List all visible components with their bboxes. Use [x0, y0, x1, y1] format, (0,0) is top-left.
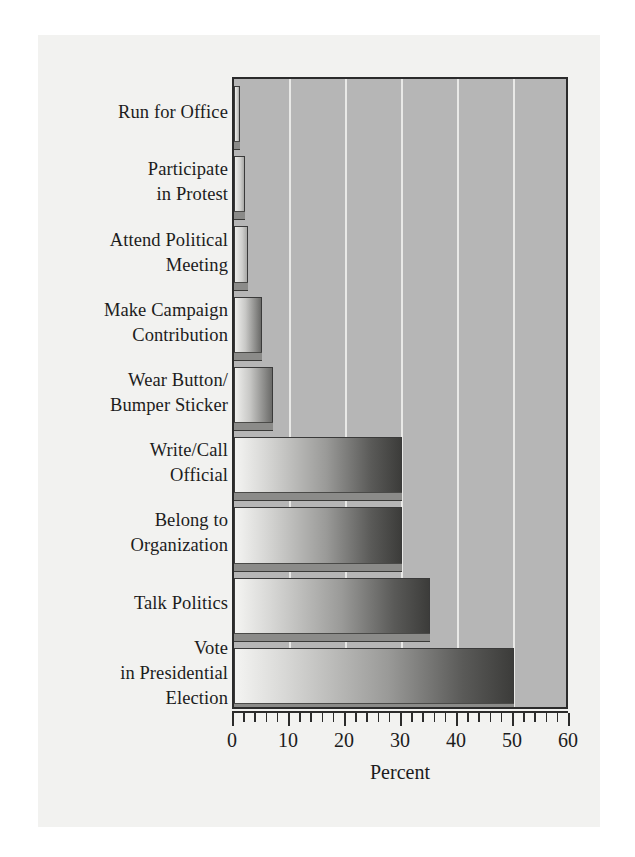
x-tick-38	[445, 713, 447, 722]
category-label-line: Write/Call	[150, 438, 228, 463]
category-label-line: in Presidential	[120, 661, 228, 686]
x-tick-8	[277, 713, 279, 722]
category-label-line: Election	[120, 686, 228, 711]
x-tick-label-30: 30	[370, 729, 430, 752]
x-tick-0	[232, 713, 234, 726]
x-tick-28	[389, 713, 391, 722]
x-tick-52	[523, 713, 525, 722]
figure-page: Run for OfficeParticipatein ProtestAtten…	[38, 35, 600, 827]
category-label: Write/CallOfficial	[150, 438, 228, 488]
bar-row	[234, 290, 566, 360]
x-tick-44	[478, 713, 480, 722]
x-tick-6	[266, 713, 268, 722]
category-label-line: Bumper Sticker	[110, 393, 228, 418]
bar	[234, 86, 240, 142]
category-label: Make CampaignContribution	[104, 298, 228, 348]
category-label-line: Contribution	[104, 323, 228, 348]
bar	[234, 578, 430, 634]
bar-row	[234, 79, 566, 149]
x-tick-60	[568, 713, 570, 726]
x-tick-label-60: 60	[538, 729, 598, 752]
x-tick-12	[299, 713, 301, 722]
bar-shadow	[234, 703, 514, 709]
x-tick-32	[411, 713, 413, 722]
x-tick-50	[512, 713, 514, 726]
category-label: Attend PoliticalMeeting	[110, 228, 228, 278]
x-axis-title: Percent	[232, 761, 568, 784]
category-label-line: Make Campaign	[104, 298, 228, 323]
plot-area	[232, 77, 568, 709]
bar	[234, 226, 248, 282]
x-tick-56	[546, 713, 548, 722]
category-label: Wear Button/Bumper Sticker	[110, 368, 228, 418]
category-label-line: Wear Button/	[110, 368, 228, 393]
bar-row	[234, 360, 566, 430]
category-label-line: in Protest	[148, 182, 228, 207]
bar	[234, 367, 273, 423]
category-label-line: Attend Political	[110, 228, 228, 253]
x-tick-46	[490, 713, 492, 722]
bar-row	[234, 641, 566, 709]
x-tick-58	[557, 713, 559, 722]
category-label: Talk Politics	[134, 591, 228, 616]
x-tick-24	[366, 713, 368, 722]
category-label: Participatein Protest	[148, 157, 228, 207]
category-label: Votein PresidentialElection	[120, 636, 228, 711]
bar	[234, 648, 514, 704]
x-tick-30	[400, 713, 402, 726]
x-tick-26	[378, 713, 380, 722]
category-label-line: Participate	[148, 157, 228, 182]
bar	[234, 437, 402, 493]
category-label: Run for Office	[118, 100, 228, 125]
bar	[234, 156, 245, 212]
x-tick-14	[310, 713, 312, 722]
bar-row	[234, 500, 566, 570]
x-tick-42	[467, 713, 469, 722]
category-label-line: Official	[150, 463, 228, 488]
bar-row	[234, 571, 566, 641]
x-tick-40	[456, 713, 458, 726]
bar	[234, 507, 402, 563]
category-label-line: Talk Politics	[134, 591, 228, 616]
x-tick-16	[322, 713, 324, 722]
x-tick-34	[422, 713, 424, 722]
x-tick-22	[355, 713, 357, 722]
bar-row	[234, 430, 566, 500]
category-label-line: Belong to	[131, 508, 228, 533]
category-label-line: Organization	[131, 533, 228, 558]
x-tick-10	[288, 713, 290, 726]
bar-row	[234, 219, 566, 289]
x-tick-54	[534, 713, 536, 722]
x-tick-label-50: 50	[482, 729, 542, 752]
category-label-line: Meeting	[110, 253, 228, 278]
x-tick-label-40: 40	[426, 729, 486, 752]
x-tick-label-0: 0	[202, 729, 262, 752]
bar-chart: Run for OfficeParticipatein ProtestAtten…	[38, 35, 600, 827]
x-tick-2	[243, 713, 245, 722]
category-label-line: Run for Office	[118, 100, 228, 125]
x-tick-20	[344, 713, 346, 726]
x-tick-18	[333, 713, 335, 722]
category-label-line: Vote	[120, 636, 228, 661]
bar-row	[234, 149, 566, 219]
x-tick-48	[501, 713, 503, 722]
x-tick-label-10: 10	[258, 729, 318, 752]
bar	[234, 297, 262, 353]
x-tick-4	[254, 713, 256, 722]
x-tick-label-20: 20	[314, 729, 374, 752]
x-tick-36	[434, 713, 436, 722]
category-label: Belong toOrganization	[131, 508, 228, 558]
